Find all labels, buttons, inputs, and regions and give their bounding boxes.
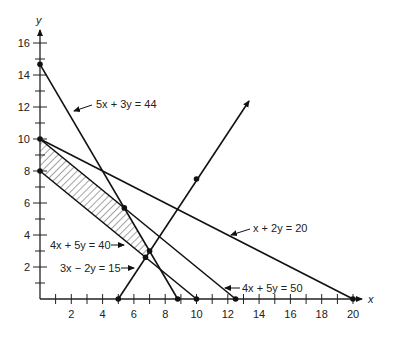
svg-text:14: 14 — [253, 308, 265, 320]
line-x-2y-20 — [40, 139, 353, 299]
svg-text:10: 10 — [190, 308, 202, 320]
line-4x-5y-50 — [40, 139, 236, 299]
x-axis-label: x — [367, 293, 374, 305]
label-4x-5y-40: 4x + 5y = 40 — [50, 239, 111, 251]
svg-text:14: 14 — [18, 69, 30, 81]
label-4x-5y-50: 4x + 5y = 50 — [242, 282, 303, 294]
svg-text:16: 16 — [284, 308, 296, 320]
svg-text:12: 12 — [222, 308, 234, 320]
line-4x-5y-40 — [40, 171, 197, 299]
svg-text:20: 20 — [347, 308, 359, 320]
label-5x-3y-44: 5x + 3y = 44 — [96, 98, 157, 110]
svg-text:4: 4 — [100, 308, 106, 320]
svg-text:2: 2 — [24, 261, 30, 273]
svg-text:16: 16 — [18, 37, 30, 49]
y-axis-label: y — [35, 14, 43, 26]
svg-text:18: 18 — [316, 308, 328, 320]
svg-text:8: 8 — [24, 165, 30, 177]
label-x-2y-20: x + 2y = 20 — [253, 222, 307, 234]
svg-text:4: 4 — [24, 229, 30, 241]
y-tick-labels: 2 4 6 8 10 12 14 16 — [18, 37, 30, 273]
line-3x-2y-15 — [118, 101, 249, 299]
label-3x-2y-15: 3x − 2y = 15 — [60, 262, 121, 274]
svg-text:12: 12 — [18, 101, 30, 113]
svg-text:10: 10 — [18, 133, 30, 145]
x-tick-labels: 2 4 6 8 10 12 14 16 18 20 — [68, 308, 359, 320]
svg-text:2: 2 — [68, 308, 74, 320]
svg-text:6: 6 — [24, 197, 30, 209]
svg-text:6: 6 — [131, 308, 137, 320]
svg-text:8: 8 — [162, 308, 168, 320]
linear-programming-chart: x y 2 4 6 8 10 12 14 16 18 20 — [0, 0, 394, 340]
